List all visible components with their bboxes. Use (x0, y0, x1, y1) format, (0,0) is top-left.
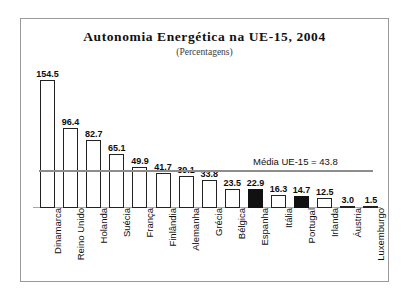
bar (225, 189, 240, 208)
bar-category-label: Irlanda (329, 208, 340, 237)
chart-frame: Autonomia Energética na UE-15, 2004 (Per… (20, 18, 389, 282)
bar-value-label: 82.7 (85, 129, 103, 139)
bar (132, 167, 147, 208)
bar-value-label: 1.5 (365, 195, 378, 205)
bar-category-label: Dinamarca (52, 208, 63, 254)
bar (294, 196, 309, 208)
bar-category-label: Reino Unido (75, 208, 86, 260)
bar (86, 140, 101, 208)
bar-category-label: Itália (283, 208, 294, 228)
mean-reference-line (39, 170, 373, 172)
bar (40, 80, 55, 208)
bar-category-label: Bélgica (236, 208, 247, 239)
bar-category-label: Portugal (306, 208, 317, 243)
bar-category-label: Suécia (121, 208, 132, 237)
bar (179, 176, 194, 208)
bar (248, 189, 263, 208)
bar-value-label: 22.9 (247, 178, 265, 188)
bar-value-label: 49.9 (131, 156, 149, 166)
bar (202, 180, 217, 208)
bar-category-label: Alemanha (190, 208, 201, 251)
bar-category-label: Espanha (259, 208, 270, 246)
bar-value-label: 3.0 (342, 195, 355, 205)
bar-value-label: 65.1 (108, 143, 126, 153)
bar (63, 128, 78, 208)
bar-category-label: França (144, 208, 155, 238)
bar-value-label: 23.5 (224, 178, 242, 188)
bar-value-label: 14.7 (293, 185, 311, 195)
bar-value-label: 16.3 (270, 184, 288, 194)
bar (156, 173, 171, 208)
plot-area: 154.5Dinamarca96.4Reino Unido82.7Holanda… (21, 19, 390, 283)
bar (317, 198, 332, 208)
bar (271, 195, 286, 208)
bar-value-label: 96.4 (62, 117, 80, 127)
bar-value-label: 12.5 (316, 187, 334, 197)
bar-category-label: Áustria (352, 208, 363, 238)
bar-category-label: Holanda (98, 208, 109, 243)
bar-value-label: 154.5 (36, 69, 59, 79)
bar-category-label: Luxemburgo (375, 208, 386, 261)
bar-category-label: Finlândia (167, 208, 178, 247)
bar-category-label: Grécia (213, 208, 224, 236)
mean-reference-label: Média UE-15 = 43.8 (253, 156, 338, 167)
bar (109, 154, 124, 208)
